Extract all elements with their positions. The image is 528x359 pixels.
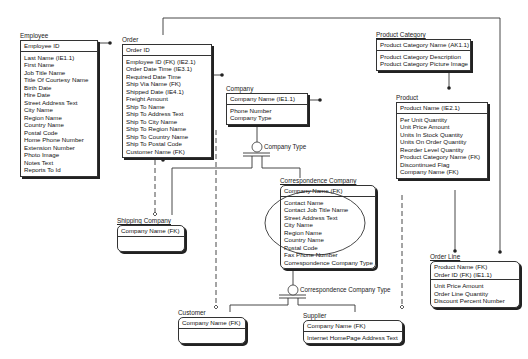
attribute: Title Of Courtesy Name [24,76,94,84]
attribute: Ship To Country Name [126,133,208,141]
attribute-section: Phone Number Company Type [227,105,307,124]
entity-name: Company [226,85,308,93]
attribute: Ship To Address Text [126,110,208,118]
attribute: Shipped Date (IE4.1) [126,88,208,96]
attribute: Hire Date [24,91,94,99]
attribute: Ship To Region Name [126,125,208,133]
attribute: Internet HomePage Address Text [307,334,399,342]
entity-order-line[interactable]: Order Line Product Name (FK) Order ID (F… [430,253,520,308]
attribute-section: Contact Name Contact Job Title Name Stre… [281,197,375,269]
attribute: Region Name [24,114,94,122]
entity-employee[interactable]: Employee Employee ID Last Name (IE1.1) F… [20,32,98,177]
attribute: Company Type [230,114,304,122]
key-section: Company Name (FK) [179,318,245,329]
attribute: Postal Code [284,244,372,252]
attribute: Photo Image [24,151,94,159]
relationship-label-company-type: Company Type [264,143,306,150]
entity-box: Company Name (FK) [117,225,185,252]
entity-box: Company Name (FK) Contact Name Contact J… [280,185,376,269]
key-attribute: Company Name (FK) [182,319,242,327]
attribute: Country Name [24,121,94,129]
attribute: Extension Number [24,144,94,152]
attribute: Postal Code [24,129,94,137]
key-attribute: Company Name (IE1.1) [230,95,304,103]
attribute: Reports To Id [24,166,94,174]
attribute: Employee ID (FK) (IE2.1) [126,58,208,66]
attribute-section: Per Unit Quantity Unit Price Amount Unit… [397,114,487,178]
entity-box: Company Name (FK) [178,317,246,344]
attribute-section: Employee ID (FK) (IE2.1) Order Date Time… [123,56,211,158]
attribute: Birth Date [24,84,94,92]
key-attribute: Product Name (IE2.1) [400,104,484,112]
entity-name: Customer [178,309,246,317]
entity-order[interactable]: Order Order ID Employee ID (FK) (IE2.1) … [122,36,212,158]
attribute: Unit Price Amount [400,123,484,131]
entity-product-category[interactable]: Product Category Product Category Name (… [376,31,471,71]
attribute-section: Product Category Description Product Cat… [377,51,470,70]
attribute: City Name [24,106,94,114]
attribute: Correspondence Company Type [284,259,372,267]
attribute: Product Category Name (FK) [400,153,484,161]
attribute: Order Date Time (IE3.1) [126,65,208,73]
key-section: Employee ID [21,41,97,52]
attribute: Ship Via Name (FK) [126,80,208,88]
entity-box: Product Name (IE2.1) Per Unit Quantity U… [396,102,488,179]
attribute: Product Category Description [380,53,467,61]
attribute: Reorder Level Quantity [400,146,484,154]
entity-customer[interactable]: Customer Company Name (FK) [178,309,246,344]
entity-correspondence-company[interactable]: Correspondence Company Company Name (FK)… [280,177,376,269]
attribute: Job Title Name [24,69,94,77]
key-attribute: Company Name (FK) [307,322,399,330]
attribute-section: Last Name (IE1.1) First Name Job Title N… [21,52,97,176]
attribute: Units On Order Quantity [400,138,484,146]
attribute: Home Phone Number [24,136,94,144]
attribute-section [118,236,184,251]
entity-box: Company Name (IE1.1) Phone Number Compan… [226,93,308,125]
attribute: Order Line Quantity [434,290,516,298]
attribute: Unit Price Amount [434,282,516,290]
key-attribute: Employee ID [24,42,94,50]
key-section: Product Category Name (AK1.1) [377,40,470,51]
entity-name: Correspondence Company [280,177,376,185]
attribute: Last Name (IE1.1) [24,54,94,62]
key-attribute: Company Name (FK) [284,187,372,195]
attribute: Phone Number [230,107,304,115]
entity-product[interactable]: Product Product Name (IE2.1) Per Unit Qu… [396,94,488,179]
entity-shipping-company[interactable]: Shipping Company Company Name (FK) [117,217,185,252]
entity-supplier[interactable]: Supplier Company Name (FK) Internet Home… [303,312,403,344]
entity-name: Supplier [303,312,403,320]
key-attribute: Company Name (FK) [121,227,181,235]
attribute: Freight Amount [126,95,208,103]
key-attribute: Order ID (FK) (IE1.1) [434,271,516,279]
attribute: Ship To Postal Code [126,140,208,148]
key-attribute: Order ID [126,46,208,54]
entity-name: Order [122,36,212,44]
entity-name: Order Line [430,253,520,261]
attribute: Per Unit Quantity [400,116,484,124]
attribute: Required Date Time [126,73,208,81]
attribute: Street Address Text [24,99,94,107]
attribute: Country Name [284,236,372,244]
entity-name: Product Category [376,31,471,39]
attribute-section [179,329,245,343]
attribute: Discount Percent Number [434,297,516,305]
attribute: Units In Stock Quantity [400,131,484,139]
attribute: Ship To City Name [126,118,208,126]
key-section: Company Name (FK) [281,186,375,197]
relationship-label-correspondence-company-type: Correspondence Company Type [300,286,391,293]
attribute: Fax Phone Number [284,251,372,259]
key-section: Product Name (FK) Order ID (FK) (IE1.1) [431,262,519,280]
entity-name: Employee [20,32,98,40]
key-attribute: Product Category Name (AK1.1) [380,41,467,49]
attribute: Street Address Text [284,214,372,222]
attribute: Region Name [284,229,372,237]
attribute-section: Internet HomePage Address Text [304,332,402,344]
attribute-section: Unit Price Amount Order Line Quantity Di… [431,280,519,307]
key-section: Company Name (FK) [118,226,184,236]
key-section: Company Name (FK) [304,321,402,332]
attribute: Notes Text [24,159,94,167]
attribute: Ship To Name [126,103,208,111]
entity-company[interactable]: Company Company Name (IE1.1) Phone Numbe… [226,85,308,125]
attribute: City Name [284,221,372,229]
entity-box: Product Category Name (AK1.1) Product Ca… [376,39,471,71]
